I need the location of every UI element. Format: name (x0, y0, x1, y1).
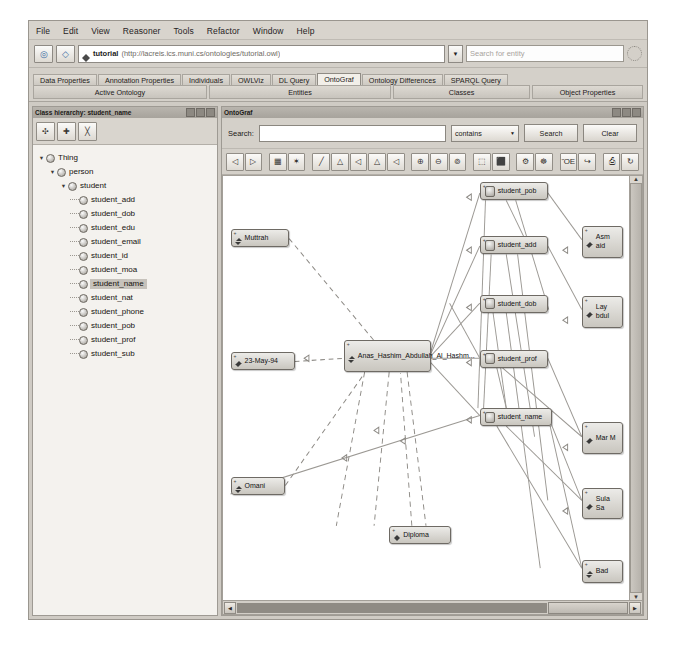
expand-node-icon[interactable]: + (483, 352, 486, 358)
print-icon[interactable]: ⎙ (603, 153, 621, 171)
menu-item-tools[interactable]: Tools (173, 26, 193, 36)
tab-group-object-properties[interactable]: Object Properties (532, 85, 643, 99)
graph-node-student-prof[interactable]: +student_prof (480, 350, 548, 368)
grid-layout-icon[interactable]: ▦ (269, 153, 287, 171)
filter-icon[interactable]: ⚙ (516, 153, 534, 171)
expand-toggle-icon[interactable]: ▼ (48, 169, 57, 175)
tree-item-student_add[interactable]: student_add (37, 193, 215, 207)
tree-item-student_id[interactable]: student_id (37, 249, 215, 263)
tree-item-student_email[interactable]: student_email (37, 235, 215, 249)
entity-search-input[interactable]: Search for entity (466, 45, 624, 62)
search-button[interactable]: Search (524, 124, 578, 142)
horizontal-scroll-thumb[interactable] (548, 602, 628, 614)
zoom-in-icon[interactable]: ⊕ (411, 153, 429, 171)
graph-node-student-pob[interactable]: +student_pob (480, 182, 548, 200)
tree-item-student_edu[interactable]: student_edu (37, 221, 215, 235)
panel-close-icon[interactable] (206, 108, 215, 117)
tree-layout-down-icon[interactable]: △ (331, 153, 349, 171)
tab-group-classes[interactable]: Classes (393, 85, 530, 99)
clear-button[interactable]: Clear (583, 124, 637, 142)
tab-group-entities[interactable]: Entities (209, 85, 391, 99)
tree-layout-up-icon[interactable]: △ (368, 153, 386, 171)
tab-ontology-differences[interactable]: Ontology Differences (362, 74, 443, 85)
tab-sparql-query[interactable]: SPARQL Query (444, 74, 508, 85)
menu-item-edit[interactable]: Edit (63, 26, 78, 36)
panel-minimize-icon[interactable] (186, 108, 195, 117)
expand-node-icon[interactable]: + (347, 342, 350, 348)
graph-node-lay-bdul[interactable]: +Lay bdul (582, 296, 624, 328)
expand-toggle-icon[interactable]: ▼ (59, 183, 68, 189)
ontograf-window-controls[interactable] (612, 108, 641, 117)
graph-node-student-name[interactable]: +student_name (480, 408, 552, 426)
graph-node-student-dob[interactable]: +student_dob (480, 295, 548, 313)
zoom-out-icon[interactable]: ⊖ (430, 153, 448, 171)
scroll-right-arrow-icon[interactable]: ▶ (629, 602, 641, 614)
panel-window-controls[interactable] (186, 108, 215, 117)
navigate-forward-icon[interactable]: ▷ (245, 153, 263, 171)
expand-toggle-icon[interactable]: ▼ (37, 155, 46, 161)
class-tree[interactable]: ▼Thing▼person▼studentstudent_addstudent_… (33, 145, 217, 615)
tree-item-student_name[interactable]: student_name (37, 277, 215, 291)
tree-item-student_phone[interactable]: student_phone (37, 305, 215, 319)
horizontal-scroll-track[interactable] (237, 603, 547, 613)
match-mode-select[interactable]: contains ▼ (451, 125, 519, 142)
expand-node-icon[interactable]: ⬚ (473, 153, 491, 171)
tree-layout-left-icon[interactable]: ◁ (350, 153, 368, 171)
scroll-down-arrow-icon[interactable]: ▼ (633, 594, 639, 600)
graph-node-anas-hashim-abdullah-al-hashm[interactable]: +Anas_Hashim_Abdullah_Al_Hashm... (344, 340, 431, 372)
ontology-uri-field[interactable]: tutorial (http://lacreis.ics.muni.cs/ont… (78, 45, 445, 63)
graph-node-muttrah[interactable]: +Muttrah (231, 229, 290, 247)
scroll-up-arrow-icon[interactable]: ▲ (633, 176, 639, 182)
expand-node-icon[interactable]: + (585, 228, 588, 234)
tab-dl-query[interactable]: DL Query (272, 74, 317, 85)
tree-layout-right-icon[interactable]: ◁ (387, 153, 405, 171)
graph-node-omani[interactable]: +Omani (231, 477, 286, 495)
tree-item-person[interactable]: ▼person (37, 165, 215, 179)
tab-data-properties[interactable]: Data Properties (33, 74, 97, 85)
menu-item-reasoner[interactable]: Reasoner (123, 26, 161, 36)
scroll-left-arrow-icon[interactable]: ◀ (224, 602, 236, 614)
menu-item-refactor[interactable]: Refactor (207, 26, 240, 36)
save-image-icon[interactable]: ὋE (560, 153, 578, 171)
tab-ontograf[interactable]: OntoGraf (317, 73, 361, 85)
tree-item-student_moa[interactable]: student_moa (37, 263, 215, 277)
expand-node-icon[interactable]: + (585, 298, 588, 304)
search-input[interactable] (259, 125, 446, 142)
navigate-back-icon[interactable]: ◁ (226, 153, 244, 171)
graph-node-mar-m[interactable]: +Mar M (582, 422, 624, 454)
menu-item-window[interactable]: Window (253, 26, 284, 36)
tree-item-student[interactable]: ▼student (37, 179, 215, 193)
expand-node-icon[interactable]: + (483, 410, 486, 416)
tab-annotation-properties[interactable]: Annotation Properties (98, 74, 181, 85)
tree-item-student_nat[interactable]: student_nat (37, 291, 215, 305)
ontograf-minimize-icon[interactable] (612, 108, 621, 117)
ontograf-close-icon[interactable] (632, 108, 641, 117)
graph-node-diploma[interactable]: +Diploma (389, 526, 451, 544)
tree-item-student_dob[interactable]: student_dob (37, 207, 215, 221)
zoom-fit-icon[interactable]: ⊚ (449, 153, 467, 171)
expand-node-icon[interactable]: + (585, 490, 588, 496)
vertical-scroll-thumb[interactable] (630, 183, 642, 593)
add-sibling-class-button[interactable]: ✚ (57, 122, 76, 141)
expand-node-icon[interactable]: + (585, 562, 588, 568)
tree-item-thing[interactable]: ▼Thing (37, 151, 215, 165)
chevron-down-icon[interactable]: ▼ (448, 45, 463, 63)
forward-arrow-icon[interactable]: ◇ (56, 45, 75, 63)
expand-node-icon[interactable]: + (483, 238, 486, 244)
expand-node-icon[interactable]: + (483, 184, 486, 190)
delete-class-button[interactable]: ╳ (78, 122, 97, 141)
menu-item-file[interactable]: File (36, 26, 50, 36)
graph-node-23-may-94[interactable]: +23-May-94 (231, 352, 295, 370)
ontograf-maximize-icon[interactable] (622, 108, 631, 117)
refresh-icon[interactable]: ↻ (621, 153, 639, 171)
tab-group-active-ontology[interactable]: Active Ontology (33, 85, 207, 99)
settings-icon[interactable]: ☸ (535, 153, 553, 171)
tab-individuals[interactable]: Individuals (182, 74, 230, 85)
expand-node-icon[interactable]: + (585, 424, 588, 430)
menu-item-view[interactable]: View (91, 26, 110, 36)
expand-node-icon[interactable]: + (483, 297, 486, 303)
tree-item-student_pob[interactable]: student_pob (37, 319, 215, 333)
menu-item-help[interactable]: Help (297, 26, 315, 36)
collapse-node-icon[interactable]: ⬛ (492, 153, 510, 171)
spring-layout-icon[interactable]: ╱ (312, 153, 330, 171)
